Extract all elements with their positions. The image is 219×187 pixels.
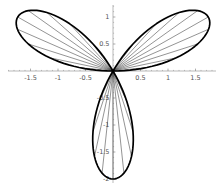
figure: r = 2 sin(3 theta) -1.5-1-0.50.511.510.5… bbox=[0, 0, 219, 187]
y-tick-label: -1.5 bbox=[97, 148, 110, 156]
x-tick-label: -1 bbox=[55, 74, 61, 82]
polar-rose-chart: -1.5-1-0.50.511.510.5-0.5-1-1.5-2 bbox=[0, 0, 219, 187]
x-tick-label: 0.5 bbox=[135, 74, 145, 82]
y-tick-label: 0.5 bbox=[99, 40, 109, 48]
y-tick-label: 1 bbox=[105, 13, 109, 21]
x-tick-label: 1 bbox=[166, 74, 170, 82]
x-tick-label: 1.5 bbox=[190, 74, 200, 82]
x-tick-label: -1.5 bbox=[24, 74, 37, 82]
y-tick-label: -1 bbox=[103, 121, 109, 129]
chart-background bbox=[0, 0, 219, 187]
x-tick-label: -0.5 bbox=[79, 74, 92, 82]
